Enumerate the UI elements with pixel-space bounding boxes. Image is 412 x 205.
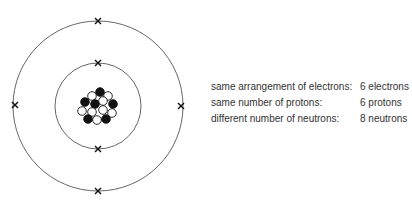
proton — [109, 100, 118, 109]
legend-value: 8 neutrons — [360, 112, 407, 126]
legend-label: same arrangement of electrons: — [211, 80, 352, 94]
proton — [81, 98, 90, 107]
neutron — [78, 107, 87, 116]
proton — [84, 115, 93, 124]
legend-label: different number of neutrons: — [211, 112, 339, 126]
neutron — [93, 116, 102, 125]
legend-value: 6 electrons — [360, 80, 409, 94]
neutron — [99, 97, 108, 106]
proton — [91, 100, 100, 109]
neutron — [88, 92, 97, 101]
proton — [96, 88, 105, 97]
legend-value: 6 protons — [360, 96, 402, 110]
neutron — [99, 106, 108, 115]
proton — [102, 115, 111, 124]
legend-label: same number of protons: — [211, 96, 322, 110]
nucleus — [78, 88, 118, 125]
atom-diagram — [0, 0, 200, 205]
